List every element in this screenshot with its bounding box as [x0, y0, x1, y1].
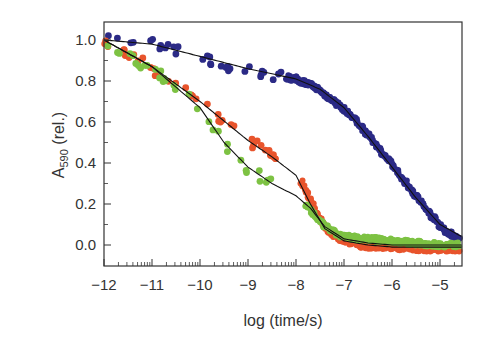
- x-tick-label: −6: [383, 276, 400, 293]
- data-point: [231, 122, 238, 129]
- x-axis-title: log (time/s): [243, 312, 322, 329]
- x-tick-label: −9: [239, 276, 256, 293]
- x-tick-label: −11: [140, 276, 164, 293]
- data-point: [173, 51, 180, 58]
- data-point: [270, 76, 277, 83]
- chart: −12−11−10−9−8−7−6−5 0.00.20.40.60.81.0 l…: [0, 0, 484, 340]
- data-point: [278, 69, 285, 76]
- y-axis-title: A590 (rel.): [50, 112, 70, 178]
- data-point: [194, 105, 201, 112]
- y-tick-label: 0.8: [75, 72, 96, 89]
- data-point: [227, 65, 234, 72]
- data-point: [204, 101, 211, 108]
- x-axis: −12−11−10−9−8−7−6−5: [91, 259, 454, 293]
- data-point: [175, 43, 182, 50]
- data-point: [208, 61, 215, 68]
- x-tick-label: −7: [335, 276, 352, 293]
- y-axis-title-main: A: [50, 167, 67, 178]
- data-point: [149, 36, 156, 43]
- y-tick-label: 1.0: [75, 31, 96, 48]
- x-tick-label: −8: [287, 276, 304, 293]
- x-tick-label: −10: [187, 276, 212, 293]
- y-axis-title-sub: 590: [58, 149, 70, 167]
- y-axis-title-suffix: (rel.): [50, 112, 67, 149]
- data-point: [243, 169, 250, 176]
- data-point: [116, 50, 123, 57]
- data-layer: [101, 32, 463, 254]
- data-point: [182, 84, 189, 91]
- x-tick-label: −12: [91, 276, 116, 293]
- data-point: [257, 178, 264, 185]
- y-axis: 0.00.20.40.60.81.0: [75, 31, 111, 253]
- y-tick-label: 0.0: [75, 236, 96, 253]
- data-point: [224, 148, 231, 155]
- y-tick-label: 0.6: [75, 113, 96, 130]
- y-tick-label: 0.2: [75, 195, 96, 212]
- series-blue: [105, 32, 463, 243]
- x-tick-label: −5: [431, 276, 448, 293]
- plot-frame: [104, 22, 462, 266]
- y-tick-label: 0.4: [75, 154, 96, 171]
